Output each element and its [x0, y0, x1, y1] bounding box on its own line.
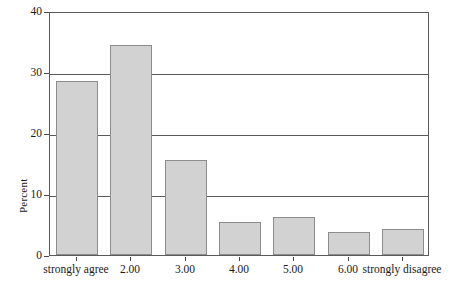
y-axis-tick-label: 0 — [16, 250, 42, 262]
bar — [56, 81, 98, 255]
x-axis-tick-mark — [402, 257, 403, 261]
y-axis-tick-mark — [44, 12, 49, 13]
y-axis-tick-mark — [44, 195, 49, 196]
y-axis-tick-labels: 010203040 — [0, 0, 42, 297]
bar — [273, 217, 315, 255]
y-axis-tick-mark — [44, 134, 49, 135]
bar — [219, 222, 261, 255]
x-axis-tick-label: strongly disagree — [363, 263, 442, 276]
x-axis-tick-label: 6.00 — [338, 263, 358, 276]
y-axis-tick-label: 30 — [16, 67, 42, 79]
x-axis-tick-labels: strongly agree2.003.004.005.006.00strong… — [49, 263, 429, 287]
x-axis-tick-label: strongly agree — [43, 263, 108, 276]
bar — [110, 45, 152, 255]
x-axis-tick-label: 5.00 — [283, 263, 303, 276]
x-axis-tick-mark — [185, 257, 186, 261]
x-axis-tick-mark — [239, 257, 240, 261]
bars-group — [50, 13, 428, 255]
x-axis-tick-label: 3.00 — [175, 263, 195, 276]
x-axis-tick-mark — [293, 257, 294, 261]
y-axis-tick-label: 40 — [16, 6, 42, 18]
bar — [165, 160, 207, 255]
plot-area — [49, 12, 429, 256]
x-axis-tick-label: 2.00 — [120, 263, 140, 276]
y-axis-tick-mark — [44, 73, 49, 74]
y-axis-tick-label: 10 — [16, 189, 42, 201]
x-axis-tick-mark — [76, 257, 77, 261]
x-axis-tick-mark — [130, 257, 131, 261]
y-axis-tick-mark — [44, 256, 49, 257]
x-axis-tick-mark — [348, 257, 349, 261]
bar — [328, 232, 370, 255]
bar — [382, 229, 424, 255]
y-axis-tick-label: 20 — [16, 128, 42, 140]
bar-chart: Percent 010203040 strongly agree2.003.00… — [0, 0, 455, 297]
x-axis-tick-label: 4.00 — [229, 263, 249, 276]
